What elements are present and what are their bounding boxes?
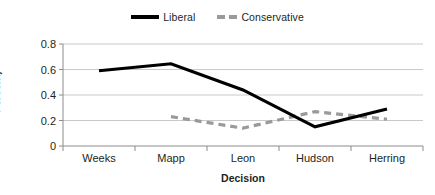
y-tick-0.8: 0.8	[5, 38, 63, 50]
y-axis-tick-labels: 0.8 0.6 0.4 0.2 0	[0, 44, 63, 146]
x-tick-leon: Leon	[231, 152, 255, 164]
line-chart: Liberal Conservative Frequency of Occurr…	[0, 0, 435, 195]
dashed-line-swatch	[217, 15, 237, 19]
x-tick-mapp: Mapp	[157, 152, 185, 164]
x-axis-tick-labels: WeeksMappLeonHudsonHerring	[63, 152, 423, 168]
legend-entry-conservative[interactable]: Conservative	[217, 11, 303, 23]
legend-label-conservative: Conservative	[241, 11, 303, 23]
solid-line-swatch	[131, 15, 159, 19]
y-tick-0.6: 0.6	[5, 64, 63, 76]
legend-entry-liberal[interactable]: Liberal	[131, 11, 195, 23]
plot-area	[63, 44, 423, 146]
x-tick-weeks: Weeks	[82, 152, 115, 164]
plot-svg	[63, 44, 423, 146]
legend-label-liberal: Liberal	[163, 11, 195, 23]
y-tick-0.4: 0.4	[5, 89, 63, 101]
chart-legend: Liberal Conservative	[0, 6, 435, 28]
y-tick-0.2: 0.2	[5, 115, 63, 127]
x-axis-tick-marks	[63, 146, 423, 151]
series-line-conservative	[171, 112, 387, 129]
x-tick-herring: Herring	[369, 152, 405, 164]
x-tick-hudson: Hudson	[296, 152, 334, 164]
y-tick-0: 0	[5, 140, 63, 152]
gridlines	[59, 44, 423, 146]
x-axis-title: Decision	[63, 172, 423, 184]
